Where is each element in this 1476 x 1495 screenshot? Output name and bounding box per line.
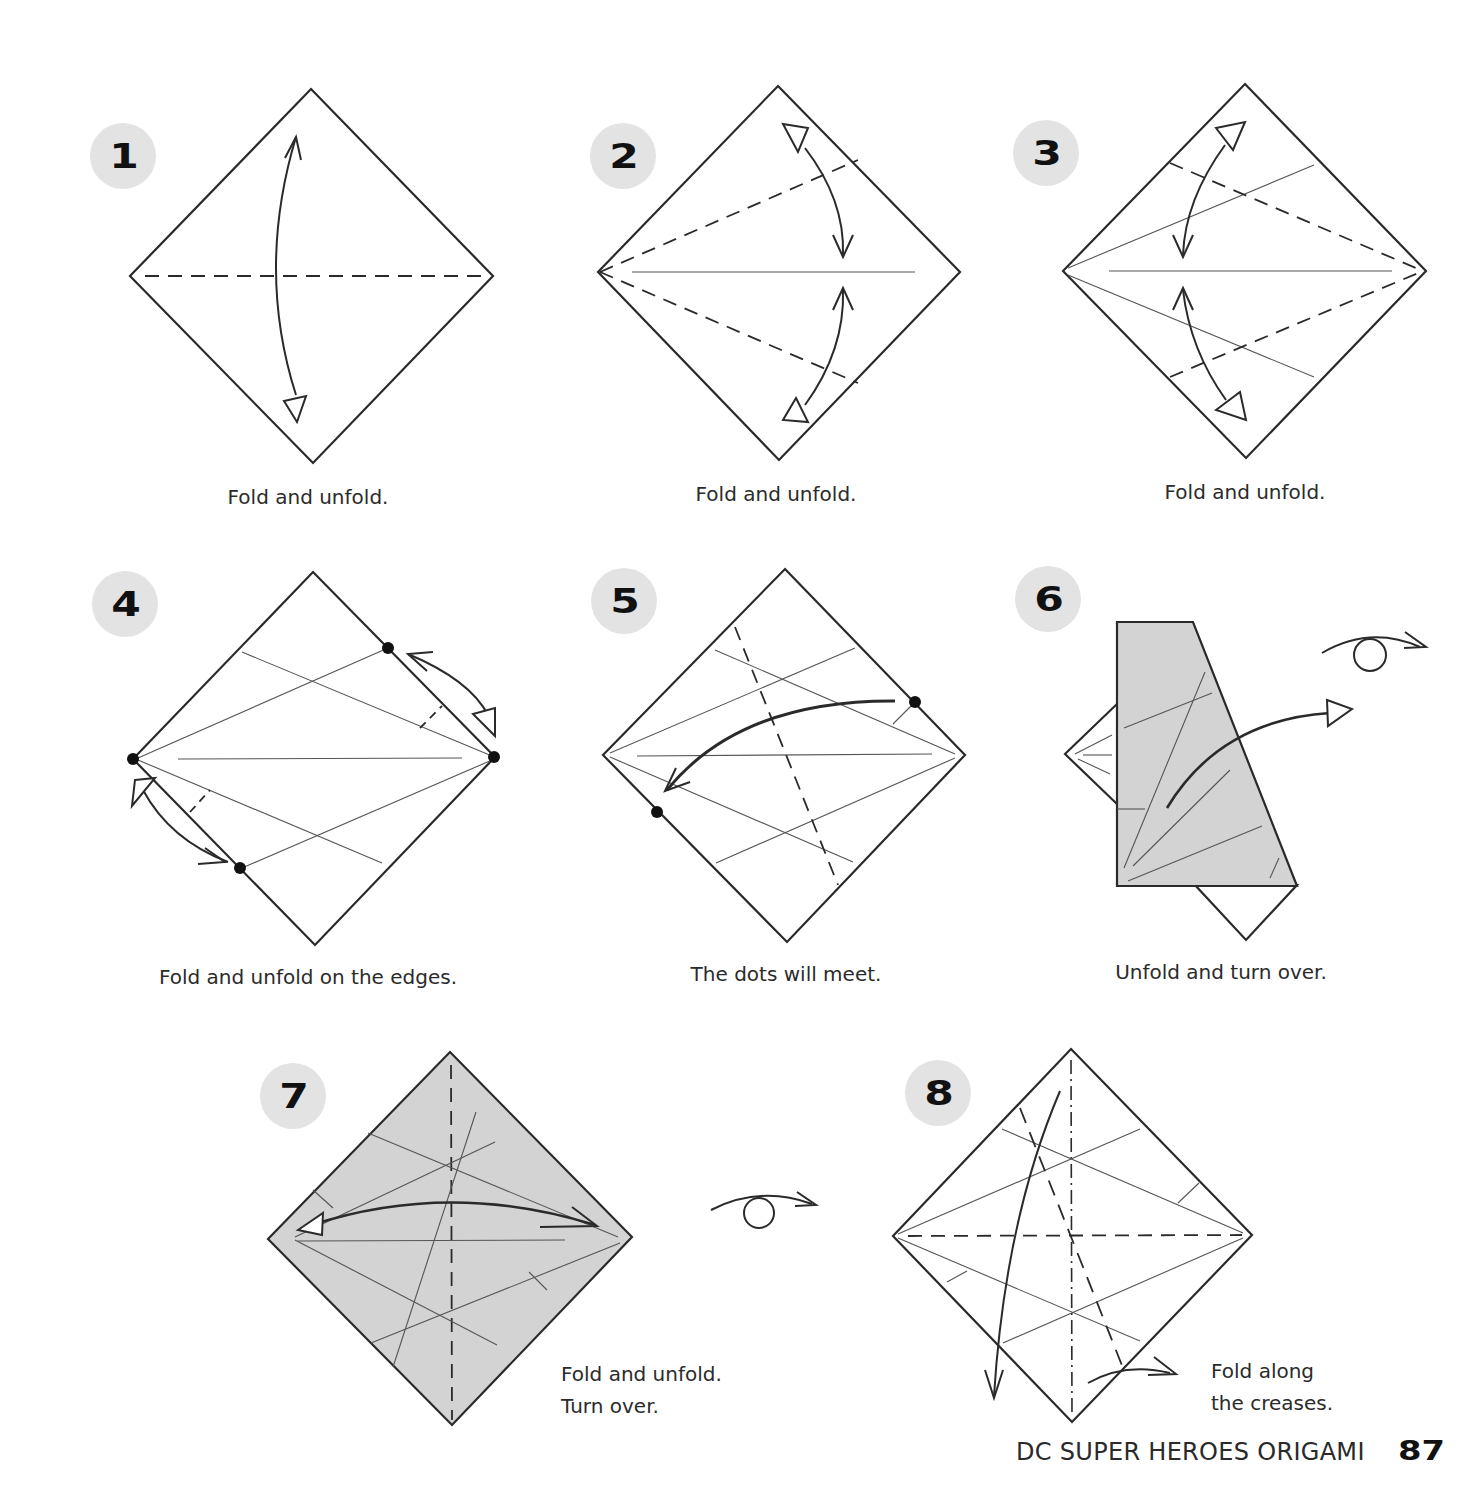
diagram-artwork: .edge{fill:none;stroke:#2a2a2a;stroke-wi…	[0, 0, 1476, 1495]
step-1-diagram	[130, 89, 493, 463]
step-number: 1	[109, 136, 137, 176]
step-number: 3	[1032, 133, 1060, 173]
step-number: 2	[609, 136, 637, 176]
step-1-caption: Fold and unfold.	[228, 481, 389, 513]
page-number: 87	[1398, 1436, 1445, 1466]
step-6-diagram	[1065, 622, 1426, 940]
step-2-caption: Fold and unfold.	[696, 478, 857, 510]
step-7-caption: Fold and unfold. Turn over.	[561, 1358, 722, 1422]
step-badge-3: 3	[1013, 120, 1079, 186]
step-8-caption: Fold along the creases.	[1211, 1355, 1333, 1419]
step-badge-8: 8	[905, 1060, 971, 1126]
book-title: DC SUPER HEROES ORIGAMI	[1016, 1438, 1365, 1466]
step-badge-5: 5	[591, 568, 657, 634]
step-7-caption-line1: Fold and unfold.	[561, 1358, 722, 1390]
step-7-caption-line2: Turn over.	[561, 1390, 722, 1422]
step-badge-6: 6	[1015, 566, 1081, 632]
step-number: 7	[279, 1076, 307, 1116]
step-5-caption: The dots will meet.	[691, 958, 882, 990]
turn-over-icon	[1322, 632, 1426, 671]
step-badge-2: 2	[590, 123, 656, 189]
step-number: 4	[111, 584, 139, 624]
step-4-diagram	[127, 572, 500, 945]
step-6-caption: Unfold and turn over.	[1115, 956, 1327, 988]
step-badge-7: 7	[260, 1063, 326, 1129]
step-badge-4: 4	[92, 571, 158, 637]
step-8-caption-line1: Fold along	[1211, 1355, 1333, 1387]
step-badge-1: 1	[90, 123, 156, 189]
step-3-diagram	[1063, 84, 1426, 458]
turn-over-icon	[711, 1192, 816, 1228]
step-3-caption: Fold and unfold.	[1165, 476, 1326, 508]
step-4-caption: Fold and unfold on the edges.	[159, 961, 457, 993]
step-number: 5	[610, 581, 638, 621]
step-5-diagram	[603, 569, 965, 942]
step-8-caption-line2: the creases.	[1211, 1387, 1333, 1419]
step-number: 6	[1034, 579, 1062, 619]
step-number: 8	[924, 1073, 952, 1113]
